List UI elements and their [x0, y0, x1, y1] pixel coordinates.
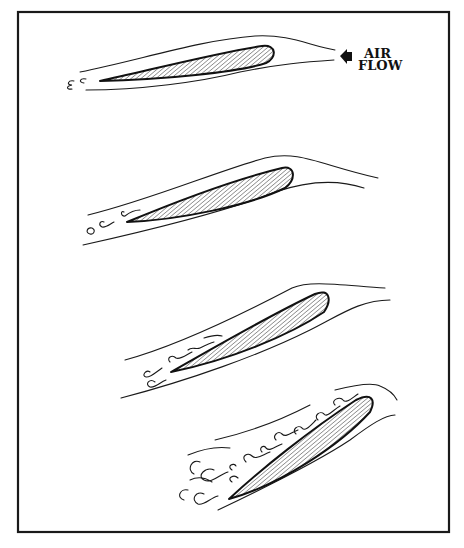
- arrow-left-icon: [340, 49, 352, 64]
- airfoil-panel-1: AIR FLOW: [68, 36, 403, 90]
- upper-streamline: [215, 405, 310, 440]
- airflow-label-line2: FLOW: [358, 58, 403, 73]
- turbulence-eddies: [180, 394, 358, 504]
- wake-eddy: [68, 79, 87, 89]
- lower-streamline: [121, 300, 390, 398]
- upper-streamline: [125, 284, 385, 360]
- airfoil-panel-2: [83, 156, 378, 245]
- airfoil-stall-diagram: AIR FLOW: [0, 0, 464, 548]
- airfoil-panel-4: [180, 384, 397, 510]
- airfoil-1: [100, 46, 274, 81]
- airfoil-4: [229, 397, 373, 499]
- airfoil-panel-3: [121, 284, 390, 398]
- diagram-frame: [18, 12, 449, 532]
